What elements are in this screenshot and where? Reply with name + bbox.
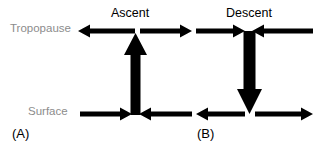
ascent-label: Ascent bbox=[111, 7, 149, 20]
descent-label: Descent bbox=[226, 7, 272, 20]
surface-inflow-left-arrow bbox=[79, 106, 134, 122]
surface-level-label: Surface bbox=[28, 106, 68, 118]
ascent-vertical-arrow bbox=[123, 31, 148, 117]
surface-outflow-left-arrow bbox=[194, 106, 247, 122]
panel-b-label: (B) bbox=[197, 127, 214, 140]
surface-outflow-right-arrow bbox=[254, 106, 315, 122]
tropopause-level-label: Tropopause bbox=[10, 23, 71, 35]
diagram-canvas: Tropopause Surface Ascent Descent (A) (B… bbox=[0, 0, 320, 150]
panel-a-label: (A) bbox=[12, 127, 29, 140]
surface-inflow-right-arrow bbox=[137, 106, 194, 122]
descent-vertical-arrow bbox=[236, 29, 263, 116]
